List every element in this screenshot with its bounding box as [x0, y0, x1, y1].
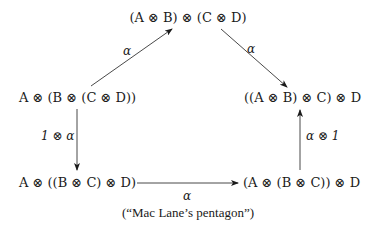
edge-label-bottom: α [183, 190, 191, 202]
edge-label-left-to-bottom-left: 1 ⊗ α [41, 130, 74, 142]
node-bottom-right: (A ⊗ (B ⊗ C)) ⊗ D [243, 176, 360, 189]
arrow-top-to-right [221, 29, 287, 87]
node-top: (A ⊗ B) ⊗ (C ⊗ D) [126, 11, 250, 24]
edge-label-left-to-top: α [123, 45, 131, 57]
node-left: A ⊗ (B ⊗ (C ⊗ D)) [19, 91, 136, 104]
caption: (“Mac Lane’s pentagon”) [0, 206, 376, 219]
node-right: ((A ⊗ B) ⊗ C) ⊗ D [244, 91, 361, 104]
edge-label-bottom-right-to-right: α ⊗ 1 [306, 130, 339, 142]
edge-label-top-to-right: α [247, 43, 255, 55]
arrow-left-to-top [91, 29, 172, 86]
node-bottom-left: A ⊗ ((B ⊗ C) ⊗ D) [19, 176, 136, 189]
